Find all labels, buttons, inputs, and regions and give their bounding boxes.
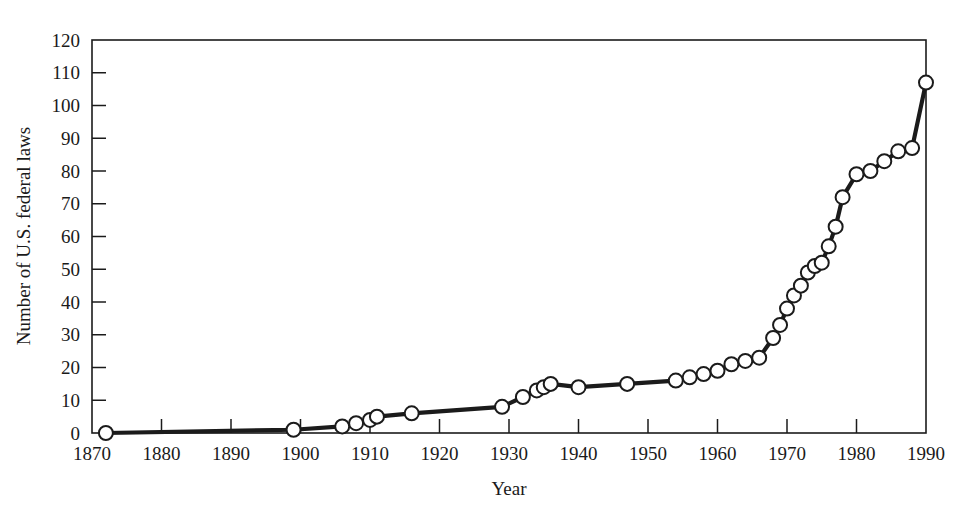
data-point-marker [99,426,113,440]
data-point-marker [544,377,558,391]
x-tick-label: 1880 [143,443,181,464]
data-point-marker [697,367,711,381]
data-point-marker [711,364,725,378]
x-tick-label: 1940 [560,443,598,464]
y-tick-label: 90 [61,128,80,149]
data-point-marker [794,279,808,293]
data-point-marker [335,419,349,433]
y-tick-label: 10 [61,390,80,411]
x-tick-label: 1930 [490,443,528,464]
data-point-marker [822,239,836,253]
y-tick-label: 60 [61,226,80,247]
y-tick-label: 0 [71,423,81,444]
data-point-marker [495,400,509,414]
data-point-marker [850,167,864,181]
data-point-marker [620,377,634,391]
y-tick-label: 110 [52,62,80,83]
y-tick-label: 120 [52,30,81,51]
x-tick-label: 1990 [907,443,945,464]
x-tick-label: 1910 [351,443,389,464]
data-point-marker [829,220,843,234]
data-point-marker [669,374,683,388]
x-tick-label: 1890 [212,443,250,464]
data-point-marker [905,141,919,155]
data-point-marker [919,76,933,90]
data-point-marker [370,410,384,424]
chart-figure: 0102030405060708090100110120 18701880189… [0,0,962,520]
data-point-marker [724,357,738,371]
x-axis-tick-labels: 1870188018901900191019201930194019501960… [73,443,945,464]
data-point-marker [773,318,787,332]
data-point-marker [780,302,794,316]
x-tick-label: 1920 [421,443,459,464]
data-point-marker [877,154,891,168]
data-point-marker [572,380,586,394]
x-tick-label: 1970 [768,443,806,464]
data-point-marker [766,331,780,345]
y-axis-title: Number of U.S. federal laws [13,127,34,345]
data-point-marker [752,351,766,365]
data-point-marker [891,144,905,158]
y-tick-label: 50 [61,259,80,280]
y-tick-label: 20 [61,357,80,378]
x-tick-label: 1960 [699,443,737,464]
data-point-marker [287,423,301,437]
plot-frame [92,40,926,433]
data-point-marker [405,406,419,420]
x-tick-label: 1870 [73,443,111,464]
x-tick-label: 1900 [282,443,320,464]
x-tick-label: 1980 [838,443,876,464]
y-axis-tick-labels: 0102030405060708090100110120 [52,30,81,444]
y-tick-label: 30 [61,324,80,345]
data-point-marker [683,370,697,384]
data-point-marker [836,190,850,204]
data-point-marker [516,390,530,404]
data-point-marker [863,164,877,178]
data-point-marker [815,256,829,270]
line-chart: 0102030405060708090100110120 18701880189… [0,0,962,520]
x-tick-label: 1950 [629,443,667,464]
data-point-marker [738,354,752,368]
y-tick-label: 70 [61,193,80,214]
y-tick-label: 80 [61,161,80,182]
data-point-marker [349,416,363,430]
y-tick-label: 100 [52,95,81,116]
x-axis-title: Year [491,478,527,499]
y-tick-label: 40 [61,292,80,313]
